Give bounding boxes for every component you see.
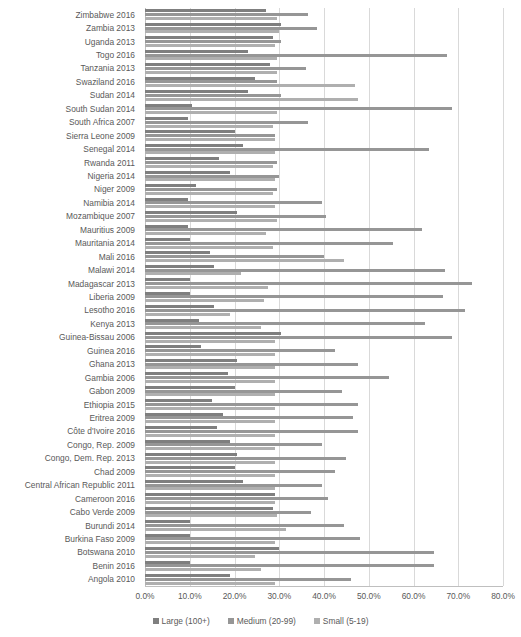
bar-group — [145, 8, 503, 21]
bar-group — [145, 425, 503, 438]
bar-large — [145, 63, 270, 66]
bar-large — [145, 453, 237, 456]
y-axis-label: Lesotho 2016 — [84, 305, 135, 315]
bar-group — [145, 21, 503, 34]
bar-large — [145, 36, 273, 39]
bar-group — [145, 102, 503, 115]
y-axis-label: Mozambique 2007 — [66, 211, 135, 221]
bar-medium — [145, 67, 306, 70]
bar-large — [145, 265, 214, 268]
y-axis-label: Botswana 2010 — [77, 547, 135, 557]
y-axis-label: South Africa 2007 — [69, 117, 135, 127]
bar-large — [145, 50, 248, 53]
bar-small — [145, 582, 275, 585]
bar-medium — [145, 511, 311, 514]
bar-group — [145, 129, 503, 142]
gridline-80 — [503, 8, 504, 586]
bar-small — [145, 555, 255, 558]
bar-medium — [145, 403, 358, 406]
bar-medium — [145, 416, 353, 419]
bar-small — [145, 286, 268, 289]
bar-small — [145, 313, 230, 316]
y-axis-label: Eritrea 2009 — [89, 413, 135, 423]
bar-small — [145, 272, 241, 275]
bar-medium — [145, 13, 308, 16]
bar-group — [145, 75, 503, 88]
y-axis-label: Tanzania 2013 — [81, 63, 135, 73]
bar-medium — [145, 148, 429, 151]
bar-small — [145, 528, 286, 531]
bar-small — [145, 246, 273, 249]
bar-small — [145, 192, 273, 195]
bar-small — [145, 30, 279, 33]
bar-medium — [145, 551, 434, 554]
bar-large — [145, 90, 248, 93]
legend-label: Small (5-19) — [323, 616, 369, 626]
bar-group — [145, 48, 503, 61]
bar-large — [145, 23, 281, 26]
y-axis-label: Gambia 2006 — [85, 373, 135, 383]
bar-group — [145, 89, 503, 102]
bar-medium — [145, 255, 324, 258]
y-axis-label: Sudan 2014 — [90, 90, 135, 100]
bar-medium — [145, 54, 447, 57]
bar-group — [145, 559, 503, 572]
legend-item-large[interactable]: Large (100+) — [153, 616, 210, 626]
bar-large — [145, 440, 230, 443]
y-axis-label: Central African Republic 2011 — [25, 480, 135, 490]
legend-swatch-icon — [153, 618, 159, 624]
bar-small — [145, 461, 275, 464]
legend-swatch-icon — [314, 618, 320, 624]
x-axis-line — [145, 586, 503, 587]
bar-chart: Zimbabwe 2016Zambia 2013Uganda 2013Togo … — [0, 0, 521, 637]
bar-group — [145, 250, 503, 263]
bar-group — [145, 519, 503, 532]
y-axis-label: Niger 2009 — [94, 184, 135, 194]
bar-medium — [145, 201, 322, 204]
bar-small — [145, 420, 275, 423]
bar-small — [145, 178, 275, 181]
bar-small — [145, 326, 261, 329]
bar-large — [145, 372, 228, 375]
bar-small — [145, 125, 273, 128]
bar-large — [145, 386, 235, 389]
bar-medium — [145, 94, 281, 97]
x-axis-label: 10.0% — [178, 590, 202, 602]
legend-item-small[interactable]: Small (5-19) — [314, 616, 369, 626]
bar-group — [145, 35, 503, 48]
bar-group — [145, 156, 503, 169]
legend-item-medium[interactable]: Medium (20-99) — [228, 616, 296, 626]
bar-group — [145, 196, 503, 209]
bar-large — [145, 574, 230, 577]
bar-large — [145, 184, 196, 187]
legend-label: Large (100+) — [162, 616, 210, 626]
bar-small — [145, 366, 275, 369]
chart-legend: Large (100+)Medium (20-99)Small (5-19) — [0, 616, 521, 626]
bar-large — [145, 117, 188, 120]
bar-small — [145, 151, 275, 154]
y-axis-label: Senegal 2014 — [83, 144, 135, 154]
bar-large — [145, 426, 217, 429]
y-axis-label: Kenya 2013 — [90, 319, 135, 329]
legend-swatch-icon — [228, 618, 234, 624]
bar-small — [145, 541, 275, 544]
bar-group — [145, 532, 503, 545]
bar-group — [145, 384, 503, 397]
bar-medium — [145, 188, 277, 191]
bar-group — [145, 183, 503, 196]
y-axis-label: Mauritius 2009 — [80, 225, 135, 235]
bar-large — [145, 547, 279, 550]
y-axis-label: Rwanda 2011 — [84, 158, 135, 168]
bar-group — [145, 478, 503, 491]
bar-medium — [145, 470, 335, 473]
x-axis-label: 30.0% — [267, 590, 291, 602]
bar-medium — [145, 349, 335, 352]
bar-medium — [145, 537, 360, 540]
bar-medium — [145, 564, 434, 567]
y-axis-label: Burundi 2014 — [85, 521, 135, 531]
y-axis-label: Cameroon 2016 — [75, 494, 135, 504]
y-axis-label: Sierra Leone 2009 — [66, 131, 135, 141]
bar-large — [145, 292, 190, 295]
bar-large — [145, 9, 266, 12]
bar-large — [145, 480, 243, 483]
